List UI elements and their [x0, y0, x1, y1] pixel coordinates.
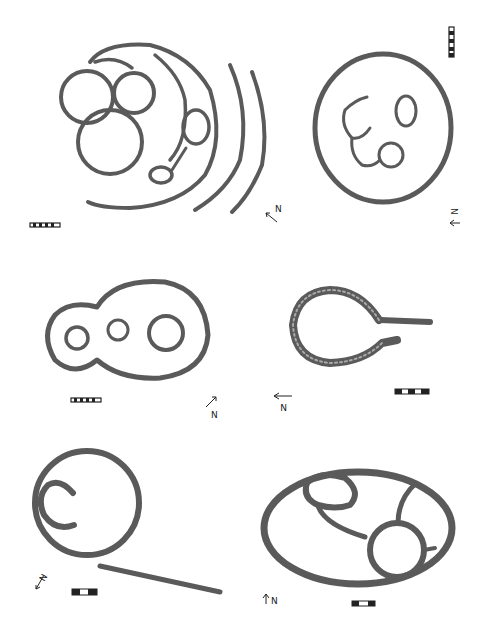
scale-bar	[395, 389, 429, 394]
north-arrow-icon: N	[266, 204, 282, 222]
plan-5: N	[35, 451, 220, 595]
scale-bar	[449, 27, 454, 57]
svg-text:N: N	[280, 402, 287, 412]
plan-4: N	[274, 290, 430, 412]
svg-text:N: N	[449, 208, 459, 215]
plan-1: N	[30, 45, 282, 227]
scale-bar	[72, 589, 97, 595]
svg-text:N: N	[211, 410, 218, 420]
north-arrow-icon: N	[274, 393, 292, 412]
svg-text:N: N	[271, 596, 278, 606]
north-arrow-icon: N	[36, 572, 49, 589]
site-plans-figure: N N N	[0, 0, 479, 636]
plan-6: N	[263, 472, 452, 606]
north-arrow-icon: N	[206, 397, 218, 420]
north-arrow-icon: N	[449, 208, 460, 226]
svg-text:N: N	[37, 572, 49, 583]
plan-2: N	[315, 27, 460, 226]
plan-3: N	[48, 282, 218, 420]
scale-bar	[30, 223, 60, 227]
scale-bar	[71, 398, 101, 402]
scale-bar	[352, 601, 375, 606]
svg-text:N: N	[275, 204, 282, 214]
north-arrow-icon: N	[263, 594, 278, 606]
